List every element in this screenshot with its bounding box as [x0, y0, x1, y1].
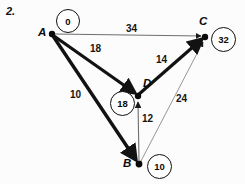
diagram-page: 2. A C D B 0 32 18 10 34 18 10 14 12 24	[0, 0, 245, 184]
node-dot-c	[202, 34, 208, 40]
edge-a-c	[54, 34, 201, 36]
distance-value-a: 0	[65, 16, 70, 27]
distance-value-d: 18	[117, 98, 128, 109]
node-dot-a	[49, 31, 55, 37]
node-label-b: B	[123, 158, 131, 170]
edge-b-c	[141, 42, 203, 161]
edge-weight-b-c: 24	[176, 94, 187, 104]
distance-value-b: 10	[154, 161, 165, 172]
node-dot-b	[136, 161, 143, 168]
edge-b-d	[138, 102, 139, 160]
node-label-c: C	[199, 16, 207, 28]
node-dot-d	[135, 93, 141, 99]
edge-weight-b-d: 12	[142, 114, 153, 124]
edge-weight-a-c: 34	[126, 24, 137, 34]
distance-badge-c: 32	[211, 27, 236, 52]
distance-badge-d: 18	[110, 91, 135, 116]
problem-number: 2.	[6, 6, 15, 17]
edge-weight-a-b: 10	[70, 90, 81, 100]
edge-weight-d-c: 14	[156, 55, 167, 65]
distance-badge-a: 0	[56, 9, 80, 33]
node-label-d: D	[143, 78, 151, 90]
distance-badge-b: 10	[147, 154, 172, 179]
edge-weight-a-d: 18	[90, 44, 101, 54]
distance-value-c: 32	[218, 34, 229, 45]
node-label-a: A	[38, 27, 46, 39]
